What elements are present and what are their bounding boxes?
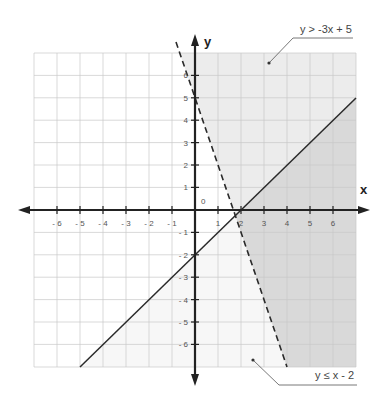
y-axis-label: y [204, 34, 212, 49]
x-tick-label: - 1 [167, 219, 177, 228]
x-tick-label: 3 [262, 219, 267, 228]
y-axis-up-arrow-icon [191, 34, 199, 46]
y-axis-down-arrow-icon [191, 374, 199, 386]
y-tick-label: 3 [184, 139, 189, 148]
y-tick-label: 1 [184, 183, 189, 192]
y-tick-label: - 1 [179, 228, 189, 237]
x-tick-label: - 5 [75, 219, 85, 228]
origin-label: 0 [201, 197, 206, 206]
x-tick-label: 1 [216, 219, 221, 228]
y-tick-label: - 3 [179, 273, 189, 282]
y-tick-label: 6 [184, 71, 189, 80]
y-tick-label: 5 [184, 94, 189, 103]
x-tick-label: - 2 [144, 219, 154, 228]
x-tick-label: - 4 [98, 219, 108, 228]
y-tick-label: 2 [184, 161, 189, 170]
x-axis-left-arrow-icon [18, 206, 30, 214]
x-tick-label: 6 [331, 219, 336, 228]
y-tick-label: - 6 [179, 340, 189, 349]
x-tick-label: 5 [308, 219, 313, 228]
y-tick-label: 4 [184, 116, 189, 125]
y-tick-label: - 4 [179, 296, 189, 305]
y-tick-label: - 5 [179, 318, 189, 327]
inequality-graph: - 6 - 5 - 4 - 3 - 2 - 1 1 2 3 4 5 6 6 5 … [0, 0, 387, 409]
x-axis-label: x [360, 182, 368, 197]
x-tick-label: 2 [239, 219, 244, 228]
y-tick-label: - 2 [179, 251, 189, 260]
ineq2-label: y ≤ x - 2 [315, 369, 354, 381]
x-axis-right-arrow-icon [358, 206, 370, 214]
x-tick-label: 4 [285, 219, 290, 228]
ineq1-label: y > -3x + 5 [300, 23, 352, 35]
x-tick-label: - 3 [121, 219, 131, 228]
x-tick-label: - 6 [52, 219, 62, 228]
